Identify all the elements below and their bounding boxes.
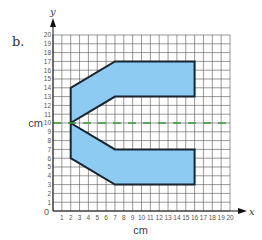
x-tick-label: 6 [104,214,108,221]
y-tick-label: 11 [44,111,51,118]
x-tick-label: 8 [122,214,126,221]
y-tick-label: 18 [44,49,52,56]
y-tick-label: 14 [44,84,52,91]
x-tick-label: 11 [147,214,154,221]
y-tick-label: 10 [44,119,52,126]
x-tick-label: 18 [209,214,217,221]
y-tick-label: 8 [47,137,51,144]
x-tick-label: 9 [131,214,135,221]
x-axis-arrow-icon [238,208,247,214]
x-tick-label: 20 [226,214,234,221]
y-tick-label: 20 [44,31,52,38]
y-tick-label: 12 [44,102,52,109]
x-tick-label: 13 [164,214,172,221]
x-tick-label: 15 [182,214,190,221]
y-tick-label: 17 [44,58,52,65]
y-tick-label: 3 [47,181,51,188]
y-tick-label: 2 [47,190,51,197]
y-axis-arrow-icon [50,18,56,27]
y-tick-label: 16 [44,67,52,74]
x-tick-label: 3 [78,214,82,221]
y-tick-label: 1 [47,199,51,206]
origin-label: 0 [44,207,49,217]
x-axis-name: x [249,206,255,217]
y-tick-label: 6 [47,155,51,162]
x-unit-label: cm [133,224,148,236]
x-tick-label: 17 [200,214,208,221]
x-tick-label: 2 [69,214,73,221]
y-unit-label: cm [28,117,43,129]
x-tick-label: 1 [60,214,64,221]
x-tick-label: 5 [95,214,99,221]
y-tick-label: 9 [47,128,51,135]
y-axis-name: y [49,6,56,17]
y-tick-label: 5 [47,163,51,170]
x-tick-label: 16 [191,214,199,221]
y-tick-label: 15 [44,75,52,82]
x-tick-label: 12 [156,214,164,221]
x-tick-label: 7 [113,214,117,221]
coordinate-grid: yx12345678910111213141516171819201234567… [0,0,262,240]
y-tick-label: 13 [44,93,52,100]
x-tick-label: 14 [173,214,181,221]
x-tick-label: 19 [218,214,226,221]
x-tick-label: 10 [138,214,146,221]
y-tick-label: 19 [44,40,52,47]
x-tick-label: 4 [87,214,91,221]
y-tick-label: 7 [47,146,51,153]
y-tick-label: 4 [47,172,51,179]
